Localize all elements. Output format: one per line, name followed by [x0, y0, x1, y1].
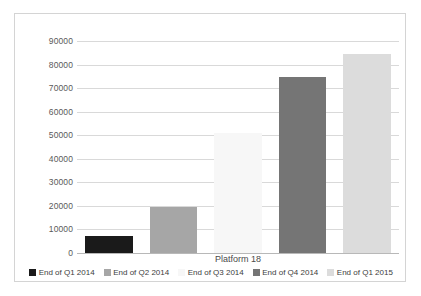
legend-swatch-icon — [29, 269, 36, 276]
y-axis-tick-label: 90000 — [49, 36, 73, 46]
y-axis-tick-label: 0 — [68, 248, 73, 258]
bar — [279, 77, 327, 253]
y-axis-tick-label: 20000 — [49, 201, 73, 211]
chart-legend: End of Q1 2014End of Q2 2014End of Q3 20… — [25, 268, 397, 277]
legend-item[interactable]: End of Q2 2014 — [104, 268, 170, 277]
chart-container: 0100002000030000400005000060000700008000… — [14, 13, 406, 282]
legend-swatch-icon — [104, 269, 111, 276]
legend-item-label: End of Q1 2014 — [39, 268, 95, 277]
bar-series — [77, 41, 399, 253]
bar — [214, 133, 262, 253]
bar — [150, 207, 198, 253]
y-axis-tick-label: 60000 — [49, 107, 73, 117]
y-axis-tick-label: 80000 — [49, 60, 73, 70]
y-axis-tick-labels: 0100002000030000400005000060000700008000… — [29, 41, 73, 253]
y-axis-tick-label: 70000 — [49, 83, 73, 93]
legend-item-label: End of Q2 2014 — [113, 268, 169, 277]
bar — [343, 54, 391, 253]
legend-item[interactable]: End of Q3 2014 — [178, 268, 244, 277]
legend-item-label: End of Q3 2014 — [188, 268, 244, 277]
legend-swatch-icon — [327, 269, 334, 276]
y-axis-tick-label: 10000 — [49, 224, 73, 234]
bar — [85, 236, 133, 253]
legend-item[interactable]: End of Q1 2015 — [327, 268, 393, 277]
x-axis-title: Platform 18 — [77, 254, 399, 264]
legend-swatch-icon — [253, 269, 260, 276]
legend-item-label: End of Q1 2015 — [337, 268, 393, 277]
legend-item-label: End of Q4 2014 — [262, 268, 318, 277]
legend-item[interactable]: End of Q1 2014 — [29, 268, 95, 277]
legend-item[interactable]: End of Q4 2014 — [253, 268, 319, 277]
y-axis-tick-label: 50000 — [49, 130, 73, 140]
y-axis-tick-label: 40000 — [49, 154, 73, 164]
legend-swatch-icon — [178, 269, 185, 276]
y-axis-tick-label: 30000 — [49, 177, 73, 187]
